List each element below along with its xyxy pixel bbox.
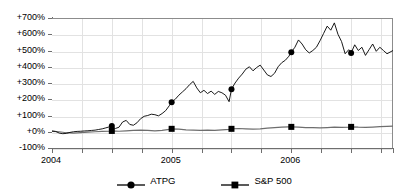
- x-tick-mark: [321, 149, 322, 153]
- square-marker-icon: [221, 176, 249, 186]
- y-tick-label: +600%: [0, 29, 45, 38]
- series-line-s-p-500: [52, 126, 393, 133]
- x-tick-mark: [82, 149, 83, 153]
- gridline-y: [52, 149, 392, 150]
- data-point-marker-atpg: [169, 99, 175, 105]
- legend-label-sp500: S&P 500: [254, 176, 291, 186]
- series-layer: [52, 18, 393, 148]
- circle-marker-icon: [117, 176, 145, 186]
- x-tick-mark: [261, 149, 262, 153]
- y-tick-label: -100%: [0, 143, 45, 152]
- x-tick-mark: [52, 149, 53, 153]
- series-line-atpg: [52, 23, 393, 134]
- x-tick-mark: [202, 149, 203, 153]
- y-tick-label: +500%: [0, 46, 45, 55]
- data-point-marker-atpg: [288, 49, 294, 55]
- data-point-marker-atpg: [228, 86, 234, 92]
- legend-label-atpg: ATPG: [150, 176, 175, 186]
- x-tick-mark: [142, 149, 143, 153]
- x-tick-mark: [172, 149, 173, 153]
- legend-item-atpg[interactable]: ATPG: [117, 176, 175, 186]
- y-tick-label: +200%: [0, 94, 45, 103]
- y-tick-label: +400%: [0, 62, 45, 71]
- x-tick-label: 2004: [41, 155, 61, 165]
- x-tick-mark: [381, 149, 382, 153]
- chart-legend: ATPG S&P 500: [0, 172, 409, 190]
- data-point-marker-sp500: [109, 128, 115, 134]
- y-tick-label: +300%: [0, 78, 45, 87]
- data-point-marker-sp500: [228, 126, 234, 132]
- data-point-marker-atpg: [348, 50, 354, 56]
- x-tick-label: 2005: [161, 155, 181, 165]
- data-point-marker-sp500: [288, 124, 294, 130]
- x-tick-mark: [351, 149, 352, 153]
- x-tick-label: 2006: [280, 155, 300, 165]
- legend-item-sp500[interactable]: S&P 500: [221, 176, 291, 186]
- x-tick-mark: [231, 149, 232, 153]
- stock-performance-chart: +700%+600%+500%+400%+300%+200%+100%+0%-1…: [0, 0, 409, 195]
- data-point-marker-sp500: [169, 126, 175, 132]
- x-tick-mark: [291, 149, 292, 153]
- x-tick-mark: [393, 149, 394, 153]
- data-point-marker-sp500: [348, 124, 354, 130]
- y-tick-label: +700%: [0, 13, 45, 22]
- x-tick-mark: [112, 149, 113, 153]
- y-tick-label: +0%: [0, 127, 45, 136]
- y-tick-label: +100%: [0, 111, 45, 120]
